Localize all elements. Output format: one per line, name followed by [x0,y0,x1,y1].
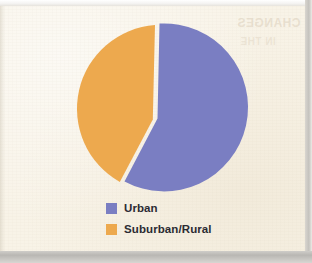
scan-edge-top [0,0,312,6]
chart-legend: Urban Suburban/Rural [106,202,212,235]
scan-edge-right [305,0,312,263]
scan-edge-bottom [0,251,312,263]
scan-edge-left [0,6,5,251]
legend-item-suburban-rural[interactable]: Suburban/Rural [106,223,212,235]
legend-item-urban[interactable]: Urban [106,202,212,214]
square-swatch-icon [106,203,117,214]
legend-item-label: Urban [124,202,158,214]
square-swatch-icon [106,224,117,235]
chart-area: Urban Suburban/Rural [0,6,305,256]
legend-item-label: Suburban/Rural [124,223,212,235]
pie-chart-screenshot: CHANGES IN THE Urban Suburban/Rural [0,0,312,263]
